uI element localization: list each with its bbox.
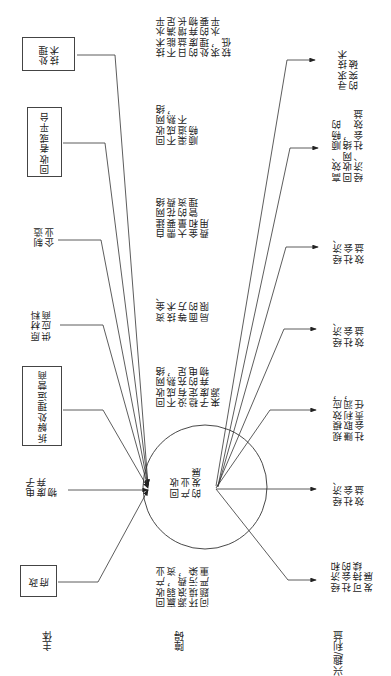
arrow-to-tech-breakthrough — [216, 60, 315, 486]
interest-tech-breakthrough: 寻求技术 的突破 — [337, 48, 359, 90]
arrow-to-supplier-benefit — [217, 329, 316, 487]
center-label: 回收 产业 的发展 — [169, 466, 202, 498]
subject-manufacturer-label: 制造 企业 — [33, 226, 55, 247]
subject-collector-platform-label: 回收者或平台 — [39, 111, 50, 174]
subject-government-box: 政 府 — [20, 565, 57, 597]
subject-processing-tech-label: 处理 技术 — [38, 44, 60, 65]
interest-sustainable: 经济和 社会的 可持续 发展 — [330, 560, 374, 592]
arrow-raw-material-supplier — [60, 325, 148, 487]
interest-ewaste-benefit: 经济、 社会 效益 — [332, 474, 365, 506]
interest-efficient-network: 高效、顺畅的 回收网络， 经济、社会效益 — [331, 108, 364, 182]
interest-manufacturer-benefit: 经济、 社会 效益 — [332, 232, 365, 264]
header-interests: 兴趣/利益 — [333, 630, 344, 676]
barrier-dismantling-operator: 回收网络 不成熟， 没有充足 稳定的电 子废弃物 来源 — [155, 365, 221, 407]
arrow-manufacturer — [58, 240, 148, 486]
subject-e-waste-label: 电子 废弃 物 — [25, 476, 58, 497]
barrier-government: 回收产业 赢弱，资 源浪费， 环境污染 问题严重 — [155, 565, 210, 607]
arrow-to-sustainable — [216, 489, 316, 580]
barrier-collector-platform: 回收网络 不成熟， 渠道不 顺畅 — [155, 103, 199, 145]
subject-collector-platform-box: 回收者或平台 — [27, 107, 62, 177]
arrow-dismantling-operator — [63, 410, 148, 488]
subject-dismantling-operator-box: 拆解处理运营商 — [22, 366, 62, 446]
barrier-raw-material-supplier: 资金、 技术 等方 面的 局限 — [155, 290, 210, 322]
subject-government-label: 政 府 — [28, 576, 50, 587]
header-subjects: 主体 — [42, 630, 53, 651]
subject-raw-material-supplier-label: 原材料 供应商 — [30, 309, 52, 341]
arrow-government — [58, 490, 148, 582]
arrow-processing-tech — [77, 55, 148, 485]
barrier-processing-tech: 技术水平 不能满足 日益增长 的废弃物 处理的要 求，水平 较低 — [155, 15, 232, 57]
interest-scale-effect: 规模效应， 赚取利润， 社会责任 — [332, 388, 365, 441]
interest-supplier-benefit: 经济、 社会 效益 — [332, 315, 365, 347]
subject-dismantling-operator-label: 拆解处理运营商 — [37, 369, 48, 443]
subject-processing-tech-box: 处理 技术 — [22, 37, 75, 71]
barrier-manufacturer: 自建网络 需要花费 大量的资 金和管理 费用 — [155, 196, 210, 238]
header-barriers: 障碍 — [174, 630, 185, 651]
